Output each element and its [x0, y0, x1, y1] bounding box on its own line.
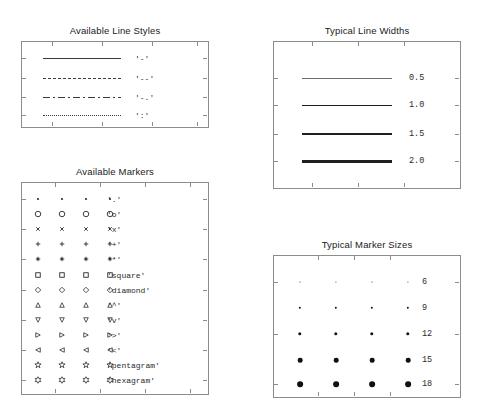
marker-triangle-right: [34, 331, 42, 339]
axis-tick: [190, 389, 191, 393]
marker-triangle-right: [58, 331, 66, 339]
marker-size-dot-9: [407, 307, 409, 309]
marker-asterisk: [82, 255, 90, 263]
axis-tick: [22, 115, 26, 116]
marker-size-label: 12: [422, 329, 432, 339]
marker-pentagram: [34, 361, 42, 369]
marker-circle: [82, 210, 90, 218]
marker-point: [84, 197, 89, 202]
marker-triangle-down: [58, 316, 66, 324]
axis-tick: [274, 105, 278, 106]
marker-size-label: 18: [422, 379, 432, 389]
marker-hexagram: [34, 376, 42, 384]
panel-markers-title: Available Markers: [22, 166, 208, 177]
line-width-label: 0.5: [409, 73, 424, 83]
marker-size-dot-15: [370, 358, 375, 363]
marker-size-dot-12: [298, 332, 301, 335]
axis-tick: [55, 389, 56, 393]
marker-label: '*': [107, 255, 121, 264]
panel-markers: Available Markers '.''o''x''+''*''square…: [21, 182, 209, 395]
axis-tick: [390, 392, 391, 396]
axis-tick: [312, 183, 313, 187]
marker-cross: [34, 225, 42, 233]
axis-tick: [203, 97, 207, 98]
marker-hexagram: [82, 376, 90, 384]
marker-square: [82, 271, 90, 279]
panel-line-styles: Available Line Styles '-''--''-.'':': [21, 41, 209, 128]
axis-tick: [203, 290, 207, 291]
marker-size-dot-6: [299, 281, 300, 282]
axis-tick: [22, 78, 26, 79]
axis-tick: [455, 334, 459, 335]
marker-triangle-right: [82, 331, 90, 339]
line-style-sample-dotted: [43, 115, 121, 116]
axis-tick: [203, 115, 207, 116]
marker-size-dot-15: [334, 358, 339, 363]
marker-plus: [82, 240, 90, 248]
marker-square: [34, 271, 42, 279]
axis-tick: [455, 161, 459, 162]
line-style-sample-dashdot: [43, 97, 121, 98]
panel-line-styles-title: Available Line Styles: [22, 25, 208, 36]
marker-diamond: [58, 286, 66, 294]
line-style-label: '-.': [135, 93, 154, 102]
axis-tick: [358, 42, 359, 46]
axis-tick: [22, 199, 26, 200]
axis-tick: [22, 97, 26, 98]
marker-triangle-left: [82, 346, 90, 354]
marker-size-dot-6: [335, 281, 336, 282]
marker-size-dot-12: [406, 332, 409, 335]
marker-label: 'diamond': [107, 286, 150, 295]
axis-tick: [390, 256, 391, 260]
axis-tick: [22, 229, 26, 230]
axis-tick: [203, 350, 207, 351]
marker-triangle-up: [58, 301, 66, 309]
axis-tick: [102, 122, 103, 126]
axis-tick: [404, 183, 405, 187]
marker-point: [36, 197, 41, 202]
axis-tick: [197, 122, 198, 126]
marker-triangle-down: [34, 316, 42, 324]
panel-marker-sizes-title: Typical Marker Sizes: [274, 239, 460, 250]
marker-hexagram: [58, 376, 66, 384]
marker-size-label: 6: [422, 277, 427, 287]
axis-tick: [203, 58, 207, 59]
marker-circle: [34, 210, 42, 218]
axis-tick: [354, 256, 355, 260]
axis-tick: [22, 380, 26, 381]
marker-size-label: 9: [422, 303, 427, 313]
marker-diamond: [34, 286, 42, 294]
axis-tick: [404, 42, 405, 46]
axis-tick: [190, 183, 191, 187]
axis-tick: [145, 183, 146, 187]
marker-size-dot-12: [370, 332, 373, 335]
line-width-label: 2.0: [409, 156, 424, 166]
marker-size-dot-9: [371, 307, 373, 309]
axis-tick: [22, 58, 26, 59]
line-width-label: 1.5: [409, 129, 424, 139]
marker-label: '<': [107, 346, 121, 355]
marker-asterisk: [58, 255, 66, 263]
axis-tick: [100, 183, 101, 187]
axis-tick: [354, 392, 355, 396]
marker-cross: [58, 225, 66, 233]
marker-label: 'pentagram': [107, 361, 160, 370]
axis-tick: [274, 384, 278, 385]
axis-tick: [203, 380, 207, 381]
marker-triangle-left: [58, 346, 66, 354]
marker-label: 'v': [107, 316, 121, 325]
axis-tick: [455, 105, 459, 106]
marker-triangle-up: [34, 301, 42, 309]
marker-size-dot-15: [298, 358, 303, 363]
marker-point: [60, 197, 65, 202]
marker-label: '+': [107, 240, 121, 249]
axis-tick: [203, 320, 207, 321]
axis-tick: [145, 389, 146, 393]
marker-label: 'o': [107, 210, 121, 219]
axis-tick: [203, 259, 207, 260]
marker-size-dot-15: [406, 358, 411, 363]
axis-tick: [274, 334, 278, 335]
axis-tick: [203, 229, 207, 230]
axis-tick: [312, 42, 313, 46]
axis-tick: [52, 42, 53, 46]
